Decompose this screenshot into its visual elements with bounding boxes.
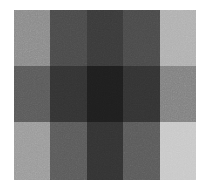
patch-cell-r3-c1: [14, 122, 50, 180]
patch-cell-r1-c1: [14, 10, 50, 66]
patch-cell-r1-c3: [87, 10, 123, 66]
patch-cell-r3-c2: [50, 122, 87, 180]
patch-cell-r2-c1: [14, 66, 50, 122]
grayscale-patch-grid: [14, 10, 196, 180]
patch-cell-r3-c4: [123, 122, 160, 180]
patch-cell-r1-c4: [123, 10, 160, 66]
patch-cell-r2-c5: [160, 66, 196, 122]
patch-cell-r3-c5: [160, 122, 196, 180]
figure-root: [0, 0, 209, 190]
patch-cell-r1-c2: [50, 10, 87, 66]
patch-cell-r1-c5: [160, 10, 196, 66]
patch-cell-r3-c3: [87, 122, 123, 180]
patch-cell-r2-c2: [50, 66, 87, 122]
patch-cell-r2-c3: [87, 66, 123, 122]
patch-cell-r2-c4: [123, 66, 160, 122]
